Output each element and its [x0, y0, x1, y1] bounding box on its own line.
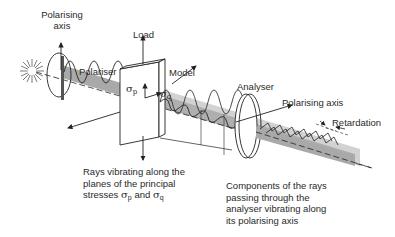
caption-line: its polarising axis [226, 215, 327, 227]
subscript: p [133, 88, 137, 96]
caption-line: planes of the principal [83, 178, 185, 190]
sigma-symbol: σ [160, 88, 167, 99]
load-label: Load [133, 29, 154, 40]
sigma-q-label: σq [160, 88, 171, 103]
model-plate [120, 59, 165, 145]
caption-line: passing through the [226, 192, 327, 204]
caption-principal-stresses: Rays vibrating along the planes of the p… [83, 166, 185, 204]
label-line: Polarising [40, 9, 84, 20]
retardation-label: Retardation [332, 117, 381, 128]
caption-text: and [132, 189, 153, 200]
caption-line: analyser vibrating along [226, 203, 327, 215]
sigma-symbol: σ [121, 189, 128, 200]
subscript: q [160, 194, 164, 201]
caption-analyser-components: Components of the rays passing through t… [226, 180, 327, 226]
analyser-label: Analyser [237, 81, 274, 92]
label-line: axis [40, 20, 84, 31]
polarising-axis-right-label: Polarising axis [282, 97, 343, 108]
sigma-symbol: σ [153, 189, 160, 200]
subscript: q [167, 93, 171, 101]
caption-line: Rays vibrating along the [83, 166, 185, 178]
caption-text: stresses [83, 189, 121, 200]
sigma-p-label: σp [126, 83, 137, 98]
model-label: Model [169, 67, 195, 78]
analyser-disc [235, 94, 257, 158]
caption-line: stresses σp and σq [83, 189, 185, 204]
polariser-label: Polariser [79, 66, 117, 77]
polarising-axis-left-label: Polarising axis [40, 9, 84, 31]
caption-line: Components of the rays [226, 180, 327, 192]
sigma-symbol: σ [126, 83, 133, 94]
